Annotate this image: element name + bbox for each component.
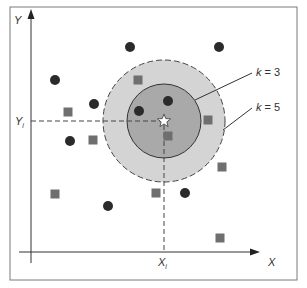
circle-point [89, 99, 99, 109]
square-point [204, 116, 213, 125]
circle-point [50, 75, 60, 85]
knn-diagram: Y X Yi Xi k = 3 k = 5 [0, 0, 307, 288]
k3-label: k = 3 [256, 66, 280, 78]
circle-point [180, 188, 190, 198]
y-axis-label: Y [14, 14, 22, 26]
x-axis-label: X [267, 256, 276, 268]
square-point [64, 108, 73, 117]
circle-point [65, 136, 75, 146]
circle-point [103, 201, 113, 211]
diagram-canvas: Y X Yi Xi k = 3 k = 5 [0, 0, 307, 288]
square-point [218, 163, 227, 172]
circle-point [214, 42, 224, 52]
square-point [51, 190, 60, 199]
circle-point [134, 106, 144, 116]
square-point [89, 136, 98, 145]
square-point [152, 189, 161, 198]
square-point [164, 132, 173, 141]
square-point [134, 76, 143, 85]
circle-point [163, 96, 173, 106]
circle-point [125, 42, 135, 52]
k5-label: k = 5 [256, 101, 280, 113]
square-point [216, 234, 225, 243]
